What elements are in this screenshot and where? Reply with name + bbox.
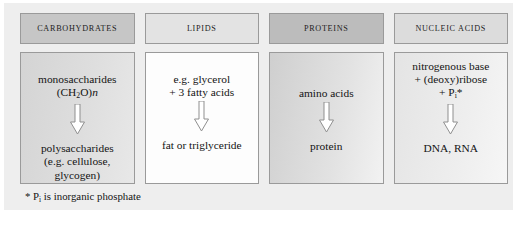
header-carbohydrates: CARBOHYDRATES bbox=[20, 13, 135, 44]
product-carbohydrates: polysaccharides(e.g. cellulose,glycogen) bbox=[21, 142, 134, 182]
column-lipids: LIPIDS e.g. glycerol+ 3 fatty acids fat … bbox=[145, 13, 260, 184]
product-proteins: protein bbox=[270, 140, 383, 153]
figure-panel: CARBOHYDRATES monosaccharides(CH2O)n pol… bbox=[4, 3, 513, 210]
down-block-arrow-icon-proteins bbox=[270, 100, 383, 134]
substrate-lipids: e.g. glycerol+ 3 fatty acids bbox=[146, 73, 259, 99]
product-lipids: fat or triglyceride bbox=[146, 139, 259, 152]
content-box-lipids: e.g. glycerol+ 3 fatty acids fat or trig… bbox=[145, 52, 260, 184]
down-block-arrow-icon-nucleic-acids bbox=[395, 102, 508, 136]
content-box-nucleic-acids: nitrogenous base+ (deoxy)ribose+ Pi* DNA… bbox=[394, 52, 509, 184]
substrate-carbohydrates: monosaccharides(CH2O)n bbox=[21, 73, 134, 102]
content-box-proteins: amino acids protein bbox=[269, 52, 384, 184]
down-block-arrow-icon-lipids bbox=[146, 99, 259, 133]
product-nucleic-acids: DNA, RNA bbox=[395, 142, 508, 155]
header-lipids: LIPIDS bbox=[145, 13, 260, 44]
content-box-carbohydrates: monosaccharides(CH2O)n polysaccharides(e… bbox=[20, 52, 135, 184]
substrate-proteins: amino acids bbox=[270, 87, 383, 100]
header-nucleic-acids: NUCLEIC ACIDS bbox=[394, 13, 509, 44]
macromolecule-columns: CARBOHYDRATES monosaccharides(CH2O)n pol… bbox=[20, 13, 508, 184]
footnote-inorganic-phosphate: * Pi is inorganic phosphate bbox=[25, 190, 141, 206]
column-carbohydrates: CARBOHYDRATES monosaccharides(CH2O)n pol… bbox=[20, 13, 135, 184]
header-proteins: PROTEINS bbox=[269, 13, 384, 44]
column-proteins: PROTEINS amino acids protein bbox=[269, 13, 384, 184]
down-block-arrow-icon-carbohydrates bbox=[21, 102, 134, 136]
substrate-nucleic-acids: nitrogenous base+ (deoxy)ribose+ Pi* bbox=[395, 60, 508, 102]
column-nucleic-acids: NUCLEIC ACIDS nitrogenous base+ (deoxy)r… bbox=[394, 13, 509, 184]
